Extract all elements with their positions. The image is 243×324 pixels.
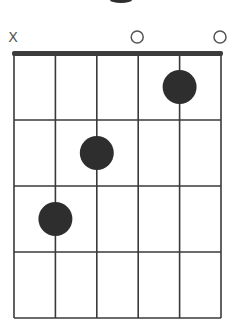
chord-diagram: X xyxy=(0,0,243,324)
open-string-icon xyxy=(131,31,143,43)
finger-dots xyxy=(38,70,196,236)
open-string-icon xyxy=(214,31,226,43)
chord-name-cropped xyxy=(110,0,132,3)
chord-name-glyph-fragment xyxy=(110,0,132,3)
finger-dot xyxy=(38,202,72,236)
open-muted-markers: X xyxy=(8,29,226,45)
nut xyxy=(12,51,223,56)
muted-string-icon: X xyxy=(8,29,18,45)
finger-dot xyxy=(163,70,197,104)
finger-dot xyxy=(80,136,114,170)
